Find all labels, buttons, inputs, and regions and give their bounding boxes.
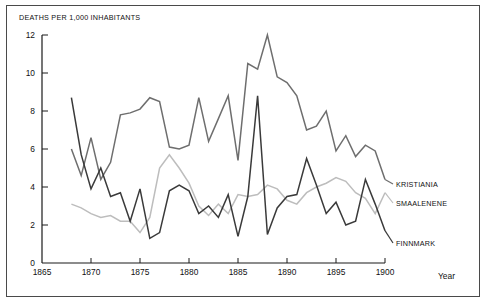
x-tick-label: 1870 <box>82 267 101 277</box>
y-tick-label: 12 <box>26 30 36 40</box>
legend-label-smaalenene: SMAALENENE <box>396 199 447 208</box>
series-line-finnmark <box>71 96 385 239</box>
legend-leader-smaalenene <box>385 193 393 203</box>
chart-page: DEATHS PER 1,000 INHABITANTS 024681012 1… <box>0 0 489 306</box>
x-tick-label: 1895 <box>327 267 346 277</box>
line-chart: 024681012 186518701875188018851890189519… <box>0 0 489 306</box>
series-line-kristiania <box>71 35 385 179</box>
x-tick-label: 1865 <box>33 267 52 277</box>
x-tick-label: 1900 <box>376 267 395 277</box>
y-axis-tick-labels: 024681012 <box>26 30 36 268</box>
y-tick-label: 8 <box>30 106 35 116</box>
x-tick-label: 1890 <box>278 267 297 277</box>
x-tick-label: 1885 <box>229 267 248 277</box>
legend-leader-kristiania <box>385 179 393 184</box>
legend-leader-finnmark <box>385 231 393 243</box>
y-tick-label: 2 <box>30 220 35 230</box>
y-tick-label: 6 <box>30 144 35 154</box>
legend-label-kristiania: KRISTIANIA <box>396 180 438 189</box>
chart-legend: KRISTIANIASMAALENENEFINNMARK <box>385 179 447 247</box>
x-axis-tick-labels: 18651870187518801885189018951900 <box>33 267 395 277</box>
x-tick-label: 1880 <box>180 267 199 277</box>
data-series <box>71 35 385 238</box>
legend-label-finnmark: FINNMARK <box>396 239 435 248</box>
x-tick-label: 1875 <box>131 267 150 277</box>
y-tick-label: 4 <box>30 182 35 192</box>
y-tick-label: 10 <box>26 68 36 78</box>
x-axis-label: Year <box>438 271 455 281</box>
